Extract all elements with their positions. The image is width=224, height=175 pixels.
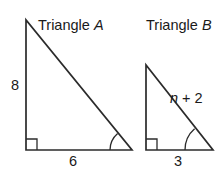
triangle-a-horizontal-leg-label: 6 [69, 153, 77, 169]
triangle-b-title: Triangle B [146, 17, 212, 33]
triangle-a-title: Triangle A [38, 17, 104, 33]
triangle-a-group: Triangle A 8 6 [11, 17, 132, 169]
triangle-b-right-angle-icon [146, 139, 157, 150]
triangle-a-right-angle-icon [26, 139, 37, 150]
triangle-a-angle-arc-icon [110, 133, 118, 150]
triangle-b-horizontal-leg-label: 3 [174, 153, 182, 169]
geometry-diagram: Triangle A 8 6 Triangle B n + 2 3 [0, 0, 224, 175]
triangle-b-hypotenuse-label: n + 2 [170, 90, 203, 106]
geometry-figure-container: Triangle A 8 6 Triangle B n + 2 3 [0, 0, 224, 175]
triangle-a-vertical-leg-label: 8 [11, 77, 19, 93]
triangle-b-outline [146, 65, 213, 150]
triangle-b-angle-arc-icon [185, 129, 195, 150]
triangle-a-outline [26, 20, 132, 150]
triangle-b-group: Triangle B n + 2 3 [146, 17, 213, 169]
